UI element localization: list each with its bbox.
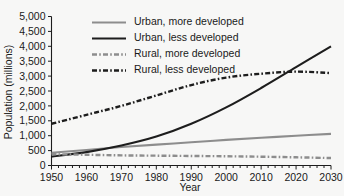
y-tick-label: 1,000 [19, 129, 45, 141]
y-tick-label: 1,500 [19, 114, 45, 126]
y-tick-label: 2,500 [19, 85, 45, 97]
y-tick-label: 3,000 [19, 70, 45, 82]
chart-canvas: 05001,0001,5002,0002,5003,0003,5004,0004… [0, 0, 344, 196]
series-line-2 [52, 154, 332, 158]
legend-label-2: Rural, more developed [134, 47, 240, 59]
y-axis-tick-labels: 05001,0001,5002,0002,5003,0003,5004,0004… [19, 10, 45, 171]
y-tick-label: 0 [40, 159, 46, 171]
x-tick-label: 2000 [215, 171, 239, 183]
x-tick-label: 1980 [145, 171, 169, 183]
legend-label-1: Urban, less developed [134, 31, 239, 43]
series-line-3 [52, 72, 332, 124]
chart-legend: Urban, more developedUrban, less develop… [92, 15, 244, 75]
y-tick-label: 4,000 [19, 40, 45, 52]
legend-label-0: Urban, more developed [134, 15, 244, 27]
x-tick-label: 1950 [40, 171, 64, 183]
y-tick-label: 2,000 [19, 100, 45, 112]
x-tick-label: 2010 [249, 171, 273, 183]
x-tick-label: 1970 [110, 171, 134, 183]
y-tick-label: 3,500 [19, 55, 45, 67]
series-line-0 [52, 134, 332, 153]
x-tick-label: 2020 [284, 171, 308, 183]
x-axis-title: Year [179, 181, 201, 193]
x-tick-label: 2030 [319, 171, 343, 183]
y-tick-label: 500 [28, 144, 46, 156]
y-tick-label: 4,500 [19, 25, 45, 37]
y-axis-title: Population (millions) [2, 45, 14, 140]
legend-label-3: Rural, less developed [134, 63, 235, 75]
population-line-chart: 05001,0001,5002,0002,5003,0003,5004,0004… [0, 0, 344, 196]
y-tick-label: 5,000 [19, 10, 45, 22]
x-tick-label: 1960 [75, 171, 99, 183]
